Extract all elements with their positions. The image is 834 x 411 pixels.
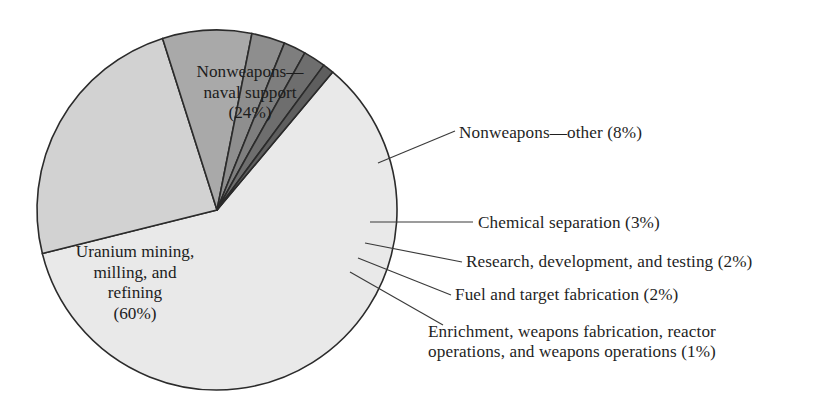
slice-label-line-1: Nonweapons— [150, 62, 350, 83]
slice-label-line-3: refining [25, 283, 245, 304]
slice-label-line-1: Uranium mining, [25, 242, 245, 263]
slice-label-line-2: milling, and [25, 263, 245, 284]
slice-label-value: (24%) [150, 103, 350, 124]
slice-label-nonweapons-naval-support: Nonweapons— naval support (24%) [150, 62, 350, 124]
slice-label-value: (60%) [25, 304, 245, 325]
callout-label-research-development-testing: Research, development, and testing (2%) [466, 252, 752, 272]
leader-line-nonweapons-other [378, 131, 455, 163]
callout-label-line-2: operations, and weapons operations (1%) [428, 342, 716, 362]
callout-label-fuel-target-fabrication: Fuel and target fabrication (2%) [455, 285, 678, 305]
callout-label-chemical-separation: Chemical separation (3%) [478, 213, 660, 233]
pie-chart-figure: Nonweapons— naval support (24%) Uranium … [0, 0, 834, 411]
slice-label-line-2: naval support [150, 83, 350, 104]
callout-label-nonweapons-other: Nonweapons—other (8%) [459, 123, 642, 143]
callout-label-line-1: Enrichment, weapons fabrication, reactor [428, 322, 716, 342]
callout-label-enrichment: Enrichment, weapons fabrication, reactor… [428, 322, 716, 363]
slice-label-uranium-mining: Uranium mining, milling, and refining (6… [25, 242, 245, 325]
